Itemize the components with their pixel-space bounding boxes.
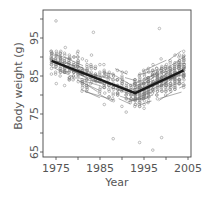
data-point xyxy=(92,31,95,34)
data-point xyxy=(55,20,58,23)
data-point xyxy=(182,50,185,53)
data-point xyxy=(64,46,67,49)
data-point xyxy=(104,92,107,95)
data-point xyxy=(152,149,155,152)
x-tick-label-1975: 1975 xyxy=(42,162,70,175)
y-tick-label-65: 65 xyxy=(28,145,41,159)
data-point xyxy=(63,84,66,87)
x-tick-label-1985: 1985 xyxy=(86,162,114,175)
data-point xyxy=(156,98,159,101)
data-point xyxy=(99,71,102,74)
data-point xyxy=(121,105,124,108)
data-point xyxy=(121,75,124,78)
data-point xyxy=(59,75,62,78)
data-point xyxy=(155,67,158,70)
data-point xyxy=(160,58,163,61)
data-point xyxy=(55,82,58,85)
data-point xyxy=(81,58,84,61)
individual-line xyxy=(81,89,100,98)
x-tick-label-2005: 2005 xyxy=(174,162,202,175)
data-point xyxy=(152,63,155,66)
data-point xyxy=(50,73,53,76)
data-point xyxy=(94,67,97,70)
data-point xyxy=(138,141,141,144)
y-tick-label-95: 95 xyxy=(28,31,41,45)
data-point xyxy=(160,136,163,139)
data-point xyxy=(156,94,159,97)
data-point xyxy=(85,60,88,63)
individual-line xyxy=(159,92,173,101)
data-point xyxy=(158,27,161,30)
individual-line xyxy=(138,69,162,75)
y-tick-label-75: 75 xyxy=(28,107,41,121)
individual-line xyxy=(140,101,152,105)
data-point xyxy=(55,50,58,53)
x-tick-label-1995: 1995 xyxy=(130,162,158,175)
individual-line xyxy=(87,85,98,92)
individual-line xyxy=(120,96,130,99)
data-point xyxy=(169,61,172,64)
data-point xyxy=(50,67,53,70)
data-point xyxy=(99,63,102,66)
y-axis-title: Body weight (g) xyxy=(12,42,25,129)
data-point xyxy=(125,111,128,114)
data-point xyxy=(112,137,115,140)
data-point xyxy=(143,107,146,110)
data-point xyxy=(54,73,57,76)
x-axis-title: Year xyxy=(104,176,129,189)
data-point xyxy=(77,77,80,80)
y-tick-label-85: 85 xyxy=(28,69,41,83)
data-point xyxy=(90,54,93,57)
data-point xyxy=(103,103,106,106)
data-point xyxy=(103,63,106,66)
data-point xyxy=(112,94,115,97)
scatter-chart: 1975 1985 1995 2005 65 75 85 95 Year Bod… xyxy=(0,0,209,200)
data-point xyxy=(103,69,106,72)
data-point xyxy=(86,63,89,66)
